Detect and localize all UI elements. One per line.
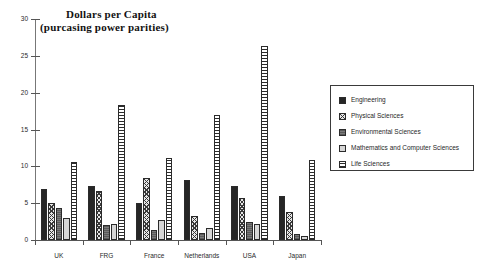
y-axis-tick-label: 20 <box>8 89 28 96</box>
legend-swatch-icon <box>339 145 346 152</box>
legend-swatch-icon <box>339 113 346 120</box>
bar-netherlands-life-sciences <box>214 115 221 240</box>
x-axis-separator <box>130 240 131 245</box>
bar-frg-physical-sciences <box>96 191 103 240</box>
x-axis-label-japan: Japan <box>267 252 327 259</box>
bar-layer <box>35 19 321 240</box>
bar-netherlands-environmental-sciences <box>199 233 206 240</box>
bar-japan-physical-sciences <box>286 212 293 240</box>
legend-item-label: Life Sciences <box>351 161 390 168</box>
bar-netherlands-mathematics-and-computer-sciences <box>206 228 213 240</box>
bar-france-environmental-sciences <box>151 230 158 240</box>
bar-frg-mathematics-and-computer-sciences <box>111 224 118 240</box>
y-axis-tick-label: 30 <box>8 15 28 22</box>
legend-item-life-sciences[interactable]: Life Sciences <box>339 157 473 171</box>
chart-legend: EngineeringPhysical SciencesEnvironmenta… <box>330 85 474 171</box>
legend-item-engineering[interactable]: Engineering <box>339 93 473 107</box>
legend-item-label: Mathematics and Computer Sciences <box>351 145 459 152</box>
bar-uk-life-sciences <box>71 162 78 240</box>
bar-japan-environmental-sciences <box>294 234 301 240</box>
legend-item-environmental-sciences[interactable]: Environmental Sciences <box>339 125 473 139</box>
bar-uk-engineering <box>41 189 48 240</box>
y-axis-tick-label: 25 <box>8 52 28 59</box>
bar-chart: Dollars per Capita (purcasing power pari… <box>0 0 479 276</box>
legend-swatch-icon <box>339 97 346 104</box>
bar-netherlands-engineering <box>184 180 191 240</box>
x-axis-separator <box>83 240 84 245</box>
legend-item-label: Environmental Sciences <box>351 129 421 136</box>
bar-japan-life-sciences <box>309 160 316 240</box>
bar-usa-life-sciences <box>261 46 268 240</box>
x-axis-separator <box>35 240 36 245</box>
x-axis-separator <box>178 240 179 245</box>
y-axis-tick-label: 10 <box>8 162 28 169</box>
x-axis-separator <box>321 240 322 245</box>
y-axis-tick-label: 5 <box>8 199 28 206</box>
bar-japan-engineering <box>279 196 286 240</box>
bar-frg-environmental-sciences <box>103 225 110 240</box>
legend-item-physical-sciences[interactable]: Physical Sciences <box>339 109 473 123</box>
legend-swatch-icon <box>339 129 346 136</box>
bar-france-life-sciences <box>166 158 173 240</box>
x-axis-separator <box>226 240 227 245</box>
bar-france-engineering <box>136 203 143 240</box>
bar-usa-physical-sciences <box>239 198 246 240</box>
bar-france-mathematics-and-computer-sciences <box>158 220 165 240</box>
bar-frg-engineering <box>88 186 95 240</box>
bar-japan-mathematics-and-computer-sciences <box>301 236 308 240</box>
bar-usa-environmental-sciences <box>246 222 253 240</box>
legend-item-label: Physical Sciences <box>351 113 403 120</box>
legend-item-label: Engineering <box>351 97 386 104</box>
bar-usa-mathematics-and-computer-sciences <box>254 224 261 240</box>
legend-item-mathematics-and-computer-sciences[interactable]: Mathematics and Computer Sciences <box>339 141 473 155</box>
y-axis-tick-label: 15 <box>8 126 28 133</box>
x-axis-separator <box>273 240 274 245</box>
bar-france-physical-sciences <box>143 178 150 240</box>
y-axis-tick-label: 0 <box>8 236 28 243</box>
plot-area <box>35 19 321 240</box>
bar-netherlands-physical-sciences <box>191 216 198 240</box>
bar-uk-physical-sciences <box>48 203 55 240</box>
bar-usa-engineering <box>231 186 238 240</box>
bar-frg-life-sciences <box>118 105 125 240</box>
bar-uk-mathematics-and-computer-sciences <box>63 218 70 240</box>
legend-swatch-icon <box>339 161 346 168</box>
bar-uk-environmental-sciences <box>56 208 63 240</box>
